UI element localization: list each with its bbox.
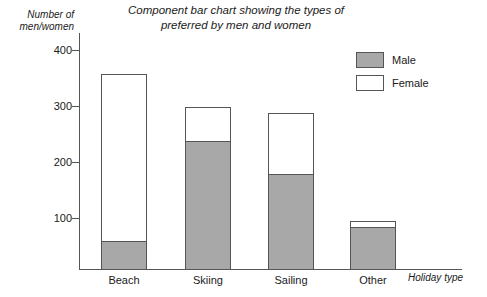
x-tick-label-sailing: Sailing (261, 274, 321, 286)
bar-skiing-male (185, 141, 231, 270)
y-tick-label-100: 100 (0, 212, 72, 224)
y-axis-line (79, 33, 80, 269)
x-tick-label-other: Other (343, 274, 403, 286)
y-axis-label-line-1: Number of (2, 9, 74, 21)
legend-swatch-male (356, 52, 384, 68)
chart-title-line-1: Component bar chart showing the types of (106, 3, 366, 18)
bar-other-male (350, 227, 396, 270)
chart-title: Component bar chart showing the types of… (106, 3, 366, 33)
bar-sailing-male (268, 174, 314, 270)
y-tick-400 (72, 50, 80, 51)
legend-label-female: Female (392, 77, 429, 89)
y-tick-300 (72, 106, 80, 107)
x-tick-label-skiing: Skiing (178, 274, 238, 286)
bar-skiing-female (185, 107, 231, 142)
y-axis-label: Number of men/women (2, 9, 74, 33)
y-tick-label-400: 400 (0, 44, 72, 56)
y-tick-200 (72, 162, 80, 163)
bar-sailing-female (268, 113, 314, 175)
bar-beach-male (101, 241, 147, 270)
y-tick-100 (72, 218, 80, 219)
legend-label-male: Male (392, 54, 416, 66)
bar-beach-female (101, 74, 147, 242)
x-tick-label-beach: Beach (94, 274, 154, 286)
y-axis-label-line-2: men/women (2, 21, 74, 33)
y-tick-label-200: 200 (0, 156, 72, 168)
chart-title-line-2: preferred by men and women (106, 18, 366, 33)
x-axis-label: Holiday type (408, 272, 463, 283)
y-tick-label-300: 300 (0, 100, 72, 112)
legend-swatch-female (356, 75, 384, 91)
chart-figure: Component bar chart showing the types of… (0, 0, 487, 297)
